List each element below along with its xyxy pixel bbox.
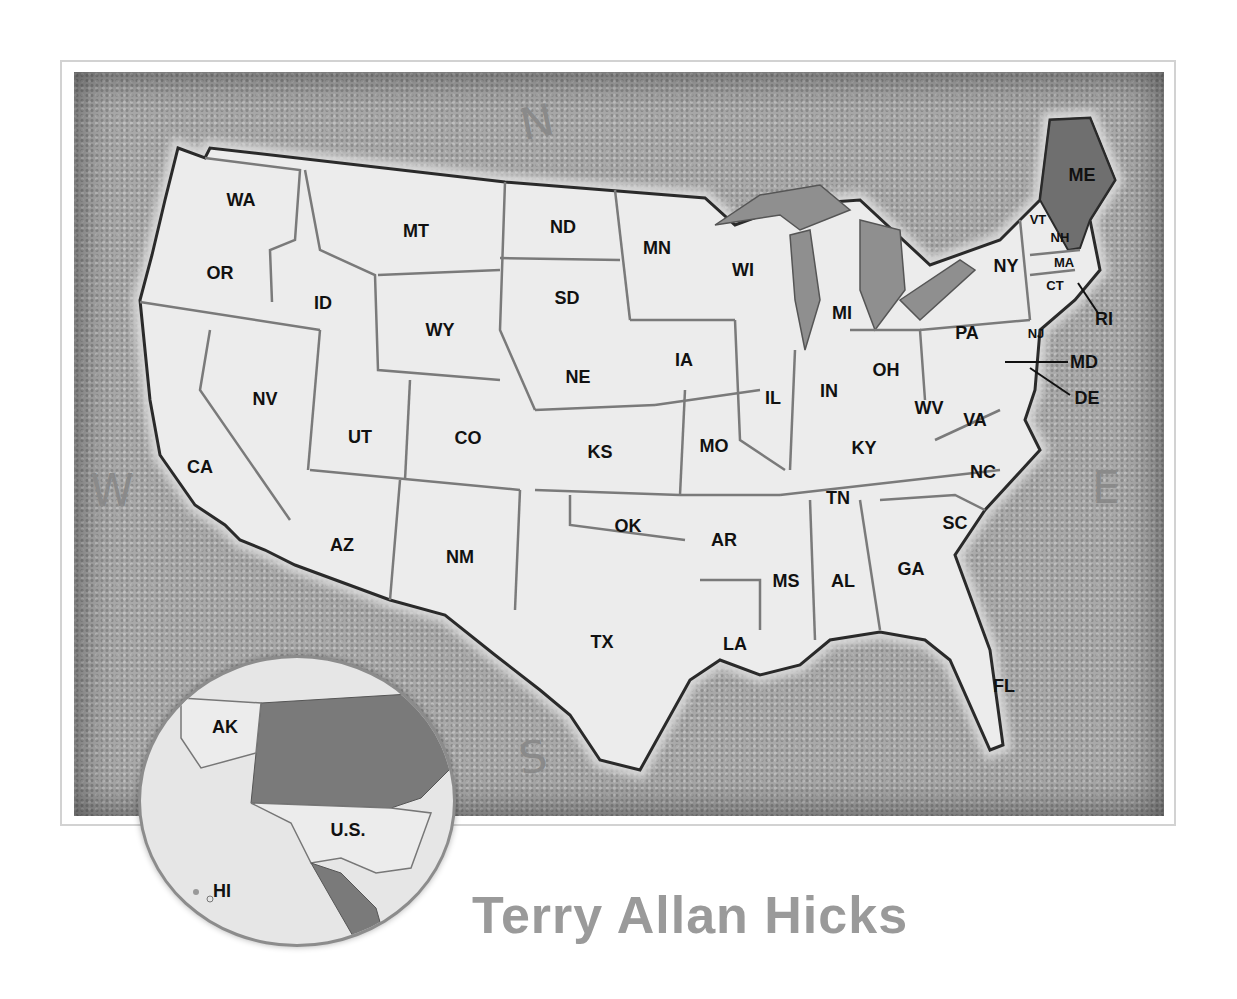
state-label[interactable]: AL [831,571,855,592]
state-label[interactable]: NC [970,462,996,483]
inset-label-hi: HI [213,881,231,902]
state-label[interactable]: AR [711,530,737,551]
state-label[interactable]: IN [820,381,838,402]
state-label[interactable]: OR [207,263,234,284]
state-label[interactable]: FL [993,676,1015,697]
state-label[interactable]: ME [1069,165,1096,186]
state-label[interactable]: CT [1046,278,1063,293]
state-label[interactable]: ND [550,217,576,238]
state-label[interactable]: MO [700,436,729,457]
state-label[interactable]: CA [187,457,213,478]
compass-west: W [90,465,134,516]
state-label[interactable]: TN [826,488,850,509]
state-label[interactable]: KS [587,442,612,463]
state-label[interactable]: MN [643,238,671,259]
state-label[interactable]: GA [898,559,925,580]
state-label[interactable]: OK [615,516,642,537]
state-label[interactable]: VA [963,410,987,431]
locator-globe [138,655,456,947]
state-label[interactable]: NJ [1028,326,1045,341]
state-label[interactable]: AZ [330,535,354,556]
state-label[interactable]: IL [765,388,781,409]
globe-map [141,658,456,947]
state-label[interactable]: WA [227,190,256,211]
state-label[interactable]: NV [252,389,277,410]
state-label[interactable]: KY [851,438,876,459]
state-label[interactable]: ID [314,293,332,314]
state-label[interactable]: IA [675,350,693,371]
state-label[interactable]: MI [832,303,852,324]
state-label[interactable]: TX [590,632,613,653]
state-label[interactable]: LA [723,634,747,655]
inset-label-us: U.S. [330,820,365,841]
state-label[interactable]: CO [455,428,482,449]
state-label[interactable]: WV [915,398,944,419]
state-label[interactable]: SD [554,288,579,309]
author-name: Terry Allan Hicks [472,885,908,945]
state-label[interactable]: MA [1054,255,1074,270]
state-label[interactable]: WI [732,260,754,281]
state-label[interactable]: MD [1070,352,1098,373]
state-label[interactable]: VT [1030,212,1047,227]
state-label[interactable]: RI [1095,309,1113,330]
state-label[interactable]: OH [873,360,900,381]
state-label[interactable]: PA [955,323,979,344]
state-label[interactable]: NE [565,367,590,388]
compass-east: E [1092,462,1120,513]
state-label[interactable]: DE [1074,388,1099,409]
state-label[interactable]: MS [773,571,800,592]
state-label[interactable]: NH [1051,230,1070,245]
state-label[interactable]: UT [348,427,372,448]
state-label[interactable]: WY [426,320,455,341]
state-label[interactable]: SC [942,513,967,534]
state-label[interactable]: NY [993,256,1018,277]
state-label[interactable]: NM [446,547,474,568]
inset-label-ak: AK [212,717,238,738]
state-label[interactable]: MT [403,221,429,242]
